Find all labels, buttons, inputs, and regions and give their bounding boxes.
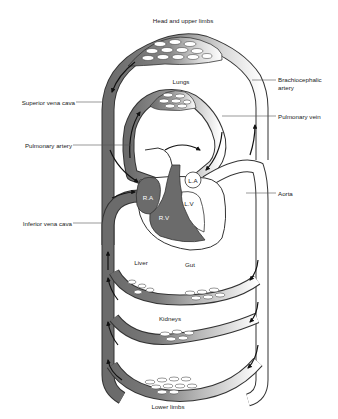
kidney-circuit xyxy=(114,318,257,341)
label-brachiocephalic-artery-line2: artery xyxy=(278,84,294,91)
label-aorta: Aorta xyxy=(278,190,293,197)
label-head-upper-limbs: Head and upper limbs xyxy=(153,17,214,24)
label-lower-limbs: Lower limbs xyxy=(151,403,184,410)
label-liver: Liver xyxy=(134,259,147,266)
liver-gut-circuit xyxy=(114,272,257,300)
diagram-canvas xyxy=(0,0,338,419)
label-gut: Gut xyxy=(185,261,195,268)
label-inferior-vena-cava: Inferior vena cava xyxy=(23,220,72,227)
circulation-diagram: Head and upper limbs Lungs Brachiocephal… xyxy=(0,0,338,419)
label-lungs: Lungs xyxy=(173,78,190,85)
label-right-ventricle: R.V xyxy=(159,214,169,221)
label-left-atrium: L.A xyxy=(188,177,197,184)
label-left-ventricle: L.V xyxy=(184,200,193,207)
label-superior-vena-cava: Superior vena cava xyxy=(22,99,75,106)
label-right-atrium: R.A xyxy=(143,194,153,201)
label-pulmonary-artery: Pulmonary artery xyxy=(25,142,72,149)
label-kidneys: Kidneys xyxy=(159,315,181,322)
label-brachiocephalic-artery-line1: Brachiocephalic xyxy=(278,76,322,83)
lower-limbs-circuit xyxy=(112,362,258,396)
label-pulmonary-vein: Pulmonary vein xyxy=(278,113,321,120)
